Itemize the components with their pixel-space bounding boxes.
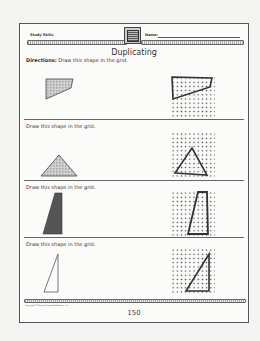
page-number: 150 [20,309,248,317]
copyright-text: Copyright © Teacher Created Materials, I… [25,304,69,306]
footer-rail [24,299,246,303]
section-4-drawn-shape [20,24,250,324]
worksheet-page: Study Skills Name: Duplicating Direction… [19,23,249,323]
